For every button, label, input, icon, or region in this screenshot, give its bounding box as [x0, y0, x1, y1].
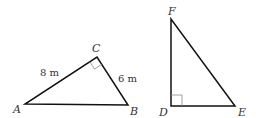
side-label-ac: 8 m [40, 67, 60, 78]
diagram-canvas: A B C 8 m 6 m D E F [0, 0, 257, 118]
triangle-def-outline [171, 19, 235, 106]
triangle-abc-outline [25, 57, 128, 105]
vertex-label-d: D [158, 106, 168, 118]
vertex-label-e: E [237, 106, 246, 118]
vertex-label-b: B [129, 105, 138, 118]
vertex-label-a: A [12, 103, 21, 116]
triangle-abc: A B C 8 m 6 m [12, 42, 138, 118]
side-label-cb: 6 m [118, 73, 138, 84]
vertex-label-f: F [167, 5, 176, 18]
vertex-label-c: C [92, 42, 101, 55]
right-angle-mark-d [171, 95, 182, 106]
triangle-def: D E F [158, 5, 246, 118]
